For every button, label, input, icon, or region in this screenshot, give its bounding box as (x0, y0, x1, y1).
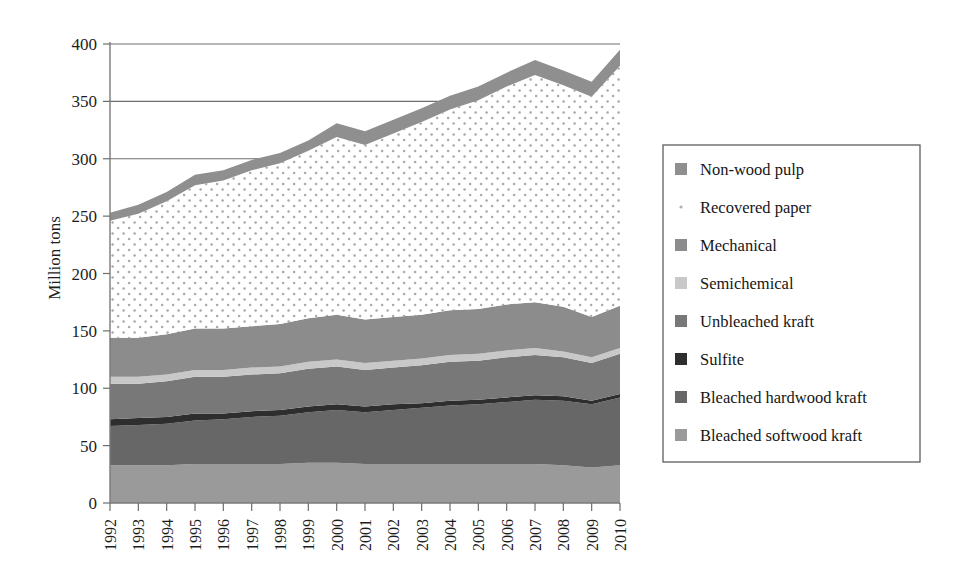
y-tick-label: 250 (72, 207, 98, 226)
legend-label: Semichemical (700, 274, 794, 293)
x-tick-label: 2006 (499, 519, 516, 551)
legend-label: Non-wood pulp (700, 160, 804, 179)
legend-swatch (675, 277, 687, 289)
legend-label: Mechanical (700, 236, 777, 255)
legend-border (663, 145, 920, 462)
y-axis-ticks: 050100150200250300350400 (72, 35, 111, 513)
x-tick-label: 2009 (584, 519, 601, 551)
legend-label: Unbleached kraft (700, 312, 814, 331)
y-tick-label: 350 (72, 92, 98, 111)
legend-swatch (675, 353, 687, 365)
x-tick-label: 2002 (385, 519, 402, 551)
x-tick-label: 2003 (414, 519, 431, 551)
y-tick-label: 50 (80, 437, 97, 456)
y-tick-label: 200 (72, 265, 98, 284)
y-tick-label: 0 (89, 494, 98, 513)
chart-legend: Non-wood pulpRecovered paperMechanicalSe… (663, 145, 920, 462)
legend-swatch-dotted (679, 205, 682, 208)
x-tick-label: 2000 (329, 519, 346, 551)
legend-swatch (675, 429, 687, 441)
legend-label: Sulfite (700, 350, 744, 369)
chart-container: 050100150200250300350400 199219931994199… (0, 0, 955, 580)
legend-swatch (675, 239, 687, 251)
area-series-group (110, 50, 620, 503)
legend-label: Bleached softwood kraft (700, 426, 863, 445)
y-tick-label: 150 (72, 322, 98, 341)
x-tick-label: 1998 (272, 519, 289, 551)
x-tick-label: 2010 (612, 519, 629, 551)
x-tick-label: 2005 (470, 519, 487, 551)
y-axis-label: Million tons (45, 216, 64, 300)
legend-label: Bleached hardwood kraft (700, 388, 867, 407)
legend-swatch (675, 391, 687, 403)
y-tick-label: 300 (72, 150, 98, 169)
legend-swatch (675, 315, 687, 327)
x-tick-label: 1993 (130, 519, 147, 551)
x-axis-ticks: 1992199319941995199619971998199920002001… (102, 503, 629, 551)
x-tick-label: 2004 (442, 519, 459, 551)
x-tick-label: 1992 (102, 519, 119, 551)
y-tick-label: 100 (72, 379, 98, 398)
legend-swatch (675, 163, 687, 175)
y-tick-label: 400 (72, 35, 98, 54)
legend-label: Recovered paper (700, 198, 812, 217)
x-tick-label: 1995 (187, 519, 204, 551)
x-tick-label: 1994 (159, 519, 176, 551)
x-tick-label: 1999 (300, 519, 317, 551)
x-tick-label: 2007 (527, 519, 544, 551)
x-tick-label: 2008 (555, 519, 572, 551)
area-band (110, 463, 620, 503)
x-tick-label: 1996 (215, 519, 232, 551)
x-tick-label: 2001 (357, 519, 374, 551)
area-band (110, 66, 620, 338)
x-tick-label: 1997 (244, 519, 261, 551)
stacked-area-chart: 050100150200250300350400 199219931994199… (0, 0, 955, 580)
